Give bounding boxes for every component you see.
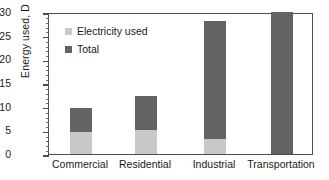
y-tick-major	[43, 37, 49, 38]
y-tick-minor	[46, 89, 50, 90]
plot-area: Electricity usedTotal	[48, 13, 313, 155]
y-tick-minor	[46, 80, 50, 81]
y-tick-minor	[46, 28, 50, 29]
y-tick-minor	[46, 23, 50, 24]
y-tick-major	[43, 84, 49, 85]
x-tick-label: Residential	[119, 158, 171, 170]
y-tick-major	[43, 108, 49, 109]
legend-swatch-icon	[65, 46, 72, 53]
y-tick-minor	[46, 51, 50, 52]
legend-item: Total	[65, 43, 148, 55]
x-tick-label: Industrial	[193, 158, 236, 170]
legend-swatch-icon	[65, 28, 72, 35]
legend-label: Total	[77, 43, 99, 55]
y-tick-minor	[46, 137, 50, 138]
y-tick-minor	[46, 151, 50, 152]
y-tick-minor	[46, 103, 50, 104]
y-tick-minor	[46, 122, 50, 123]
y-tick-minor	[46, 42, 50, 43]
y-tick-major	[43, 155, 49, 156]
y-tick-minor	[46, 146, 50, 147]
bar-segment-total	[204, 21, 226, 154]
y-tick-minor	[46, 66, 50, 67]
y-tick-label: 0	[0, 149, 11, 160]
y-tick-minor	[46, 18, 50, 19]
y-tick-minor	[46, 113, 50, 114]
y-tick-major	[43, 132, 49, 133]
y-axis-title: Energy used, D	[19, 0, 31, 116]
y-tick-minor	[46, 127, 50, 128]
legend-item: Electricity used	[65, 25, 148, 37]
y-tick-minor	[46, 94, 50, 95]
y-tick-minor	[46, 47, 50, 48]
x-tick-label: Commercial	[52, 158, 108, 170]
bar-group	[204, 12, 226, 154]
y-tick-label: 30	[0, 7, 11, 18]
chart-legend: Electricity usedTotal	[65, 25, 148, 61]
bar-segment-total	[271, 12, 293, 154]
y-tick-minor	[46, 70, 50, 71]
y-tick-minor	[46, 99, 50, 100]
legend-label: Electricity used	[77, 25, 148, 37]
y-tick-minor	[46, 56, 50, 57]
bar-segment-electricity	[135, 130, 157, 154]
chart-figure: Energy used, D 051015202530 Electricity …	[0, 0, 329, 180]
y-tick-minor	[46, 141, 50, 142]
bar-group	[271, 12, 293, 154]
y-tick-minor	[46, 118, 50, 119]
x-tick-label: Transportation	[247, 158, 314, 170]
y-tick-minor	[46, 75, 50, 76]
y-tick-label: 15	[0, 78, 11, 89]
y-tick-label: 5	[0, 125, 11, 136]
y-tick-label: 20	[0, 54, 11, 65]
y-tick-major	[43, 13, 49, 14]
y-tick-label: 10	[0, 102, 11, 113]
bar-segment-electricity	[204, 139, 226, 154]
bar-segment-electricity	[70, 132, 92, 154]
y-tick-major	[43, 61, 49, 62]
y-tick-label: 25	[0, 31, 11, 42]
y-tick-minor	[46, 32, 50, 33]
